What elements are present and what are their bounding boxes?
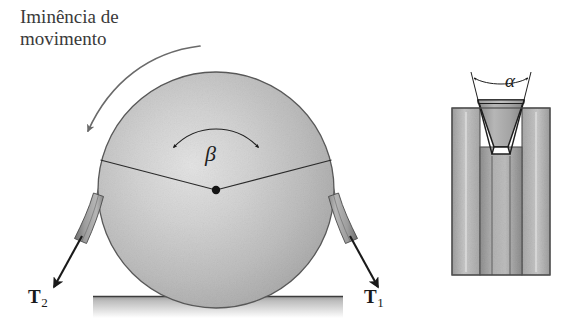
tension-label-t2-symbol: T	[28, 286, 41, 307]
tension-vector-t1	[350, 236, 378, 287]
impending-motion-caption: Iminência de movimento	[20, 6, 119, 50]
tension-label-t1-subscript: 1	[377, 295, 384, 310]
belt-segment-left	[75, 193, 104, 244]
wrap-angle-label-beta: β	[205, 141, 216, 167]
figure-container: Iminência de movimento β α T2 T1	[0, 0, 584, 333]
tension-label-t1-symbol: T	[364, 286, 377, 307]
groove-angle-label-alpha: α	[505, 70, 515, 92]
belt-segment-right	[329, 193, 358, 244]
impending-motion-caption-line2: movimento	[20, 28, 119, 50]
tension-label-t1: T1	[364, 286, 384, 311]
tension-label-t2-subscript: 2	[41, 295, 48, 310]
tension-label-t2: T2	[28, 286, 48, 311]
groove-cross-section-inset	[452, 72, 550, 275]
tension-vector-t2	[54, 236, 82, 287]
impending-motion-caption-line1: Iminência de	[20, 6, 119, 28]
